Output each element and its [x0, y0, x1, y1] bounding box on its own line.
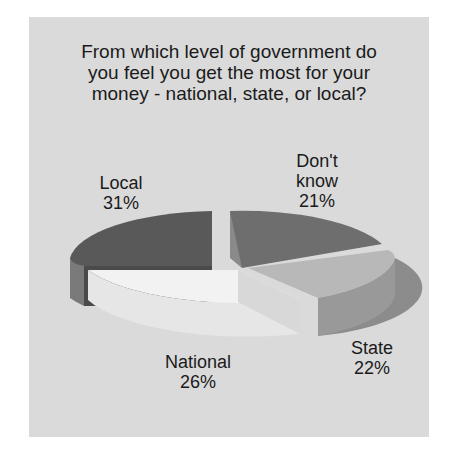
label-pct: 26%: [150, 372, 246, 392]
label-pct: 31%: [86, 193, 156, 213]
label-name: National: [150, 352, 246, 372]
label-dont-know: Don't know 21%: [282, 151, 352, 211]
label-pct: 22%: [337, 358, 407, 378]
label-name: State: [337, 338, 407, 358]
label-local: Local 31%: [86, 173, 156, 213]
label-name-2: know: [282, 171, 352, 191]
label-national: National 26%: [150, 352, 246, 392]
label-pct: 21%: [282, 191, 352, 211]
slice-national: [88, 270, 300, 337]
label-name: Don't: [282, 151, 352, 171]
label-state: State 22%: [337, 338, 407, 378]
label-name: Local: [86, 173, 156, 193]
